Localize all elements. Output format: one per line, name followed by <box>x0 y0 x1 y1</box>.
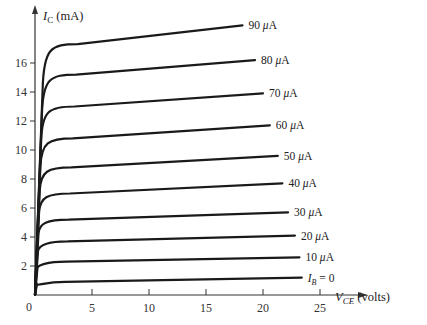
y-tick-label: 10 <box>15 143 27 157</box>
y-axis-arrow-icon <box>32 5 38 14</box>
ic-curve <box>35 278 302 295</box>
y-tick-label: 16 <box>15 56 27 70</box>
transistor-characteristic-chart: 510152025246810121416 90 μA80 μA70 μA60 … <box>0 0 427 325</box>
curve-label: 90 μA <box>248 19 277 32</box>
x-tick-label: 10 <box>143 301 155 315</box>
y-tick-label: 12 <box>15 114 27 128</box>
ic-curve <box>35 236 295 295</box>
ic-curve <box>35 257 299 295</box>
x-tick-label: 15 <box>200 301 212 315</box>
curve-label: IB = 0 <box>307 272 335 287</box>
x-tick-label: 5 <box>89 301 95 315</box>
curve-labels: 90 μA80 μA70 μA60 μA50 μA40 μA30 μA20 μA… <box>248 19 334 286</box>
y-tick-label: 8 <box>21 172 27 186</box>
y-tick-label: 14 <box>15 85 27 99</box>
ic-curve <box>35 156 278 295</box>
curve-label: 50 μA <box>284 150 313 163</box>
ic-curve <box>35 125 270 295</box>
curve-label: 10 μA <box>305 251 334 264</box>
x-tick-label: 20 <box>257 301 269 315</box>
x-axis-title: VCE (volts) <box>335 290 390 306</box>
origin-label: 0 <box>26 300 32 314</box>
x-tick-label: 25 <box>314 301 326 315</box>
y-axis-title: IC (mA) <box>42 9 83 25</box>
y-tick-label: 6 <box>21 201 27 215</box>
curve-label: 40 μA <box>288 177 317 190</box>
y-tick-label: 2 <box>21 259 27 273</box>
curve-label: 70 μA <box>269 87 298 100</box>
curve-label: 80 μA <box>261 54 290 67</box>
y-tick-label: 4 <box>21 230 27 244</box>
curve-label: 30 μA <box>294 206 323 219</box>
curve-label: 60 μA <box>276 119 305 132</box>
curve-label: 20 μA <box>301 230 330 243</box>
